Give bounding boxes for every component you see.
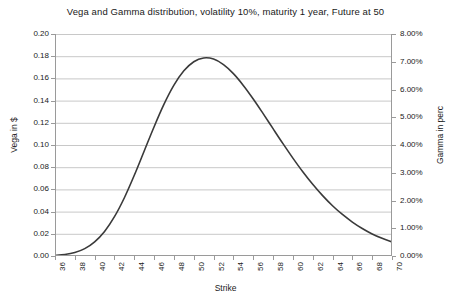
x-axis-tick-label: 52	[218, 262, 226, 271]
x-axis-tick-mark	[233, 256, 234, 260]
x-axis-tick-mark	[352, 256, 353, 260]
x-axis-tick-label: 46	[158, 262, 166, 271]
x-axis-tick-mark	[214, 256, 215, 260]
y-axis-right-tick-label: 0.00%	[400, 252, 423, 260]
y-axis-left-tick-label: 0.18	[33, 52, 49, 60]
x-axis-tick-mark	[114, 256, 115, 260]
x-axis-tick-label: 54	[237, 262, 245, 271]
x-axis-tick-mark	[313, 256, 314, 260]
x-axis-tick-mark	[372, 256, 373, 260]
x-axis-tick-label: 66	[356, 262, 364, 271]
y-axis-right-tick-mark	[392, 145, 396, 146]
y-axis-right-tick-label: 2.00%	[400, 197, 423, 205]
y-axis-left-tick-label: 0.12	[33, 119, 49, 127]
x-axis-tick-label: 44	[138, 262, 146, 271]
x-axis-tick-label: 70	[396, 262, 404, 271]
y-axis-left-tick-label: 0.10	[33, 141, 49, 149]
x-axis-tick-mark	[134, 256, 135, 260]
y-axis-right-tick-mark	[392, 228, 396, 229]
x-axis-tick-mark	[333, 256, 334, 260]
y-axis-left-tick-label: 0.16	[33, 74, 49, 82]
y-axis-right-tick-label: 7.00%	[400, 58, 423, 66]
chart-title: Vega and Gamma distribution, volatility …	[0, 6, 451, 17]
x-axis-tick-label: 68	[376, 262, 384, 271]
y-axis-left-tick-label: 0.06	[33, 185, 49, 193]
x-axis-tick-label: 62	[317, 262, 325, 271]
y-axis-right-tick-label: 8.00%	[400, 30, 423, 38]
x-axis-tick-label: 50	[198, 262, 206, 271]
plot-area	[55, 34, 392, 256]
y-axis-right-tick-label: 3.00%	[400, 169, 423, 177]
x-axis-tick-mark	[95, 256, 96, 260]
y-axis-left-tick-label: 0.02	[33, 230, 49, 238]
x-axis-tick-label: 42	[118, 262, 126, 271]
x-axis-tick-label: 56	[257, 262, 265, 271]
y-axis-right-tick-mark	[392, 173, 396, 174]
chart-container: Vega and Gamma distribution, volatility …	[0, 0, 451, 301]
plot-frame	[55, 34, 392, 256]
y-axis-right-tick-label: 4.00%	[400, 141, 423, 149]
y-axis-left-tick-label: 0.08	[33, 163, 49, 171]
x-axis-tick-label: 48	[178, 262, 186, 271]
y-axis-right-tick-label: 1.00%	[400, 224, 423, 232]
x-axis-tick-label: 64	[337, 262, 345, 271]
y-axis-left-tick-label: 0.04	[33, 208, 49, 216]
x-axis-tick-mark	[253, 256, 254, 260]
y-axis-left-tick-label: 0.20	[33, 30, 49, 38]
x-axis-tick-mark	[194, 256, 195, 260]
x-axis-tick-mark	[392, 256, 393, 260]
y-axis-left-tick-label: 0.00	[33, 252, 49, 260]
x-axis-ticks: 363840424446485052545658606264666870	[55, 256, 392, 301]
y-axis-right-tick-mark	[392, 201, 396, 202]
x-axis-tick-label: 36	[59, 262, 67, 271]
x-axis-tick-label: 60	[297, 262, 305, 271]
x-axis-tick-mark	[55, 256, 56, 260]
x-axis-tick-mark	[293, 256, 294, 260]
y-axis-right-tick-label: 5.00%	[400, 113, 423, 121]
y-axis-right-tick-mark	[392, 62, 396, 63]
x-axis-tick-mark	[154, 256, 155, 260]
x-axis-label: Strike	[0, 283, 451, 293]
y-axis-right-tick-mark	[392, 90, 396, 91]
x-axis-tick-label: 58	[277, 262, 285, 271]
x-axis-tick-label: 40	[99, 262, 107, 271]
x-axis-tick-mark	[273, 256, 274, 260]
y-axis-right-tick-label: 6.00%	[400, 86, 423, 94]
y-axis-right-tick-mark	[392, 117, 396, 118]
y-axis-left-label: Vega in $	[9, 100, 19, 170]
y-axis-right-tick-mark	[392, 34, 396, 35]
y-axis-right-label: Gamma in perc	[435, 95, 445, 175]
x-axis-tick-label: 38	[79, 262, 87, 271]
x-axis-tick-mark	[75, 256, 76, 260]
x-axis-tick-mark	[174, 256, 175, 260]
y-axis-left-tick-label: 0.14	[33, 97, 49, 105]
